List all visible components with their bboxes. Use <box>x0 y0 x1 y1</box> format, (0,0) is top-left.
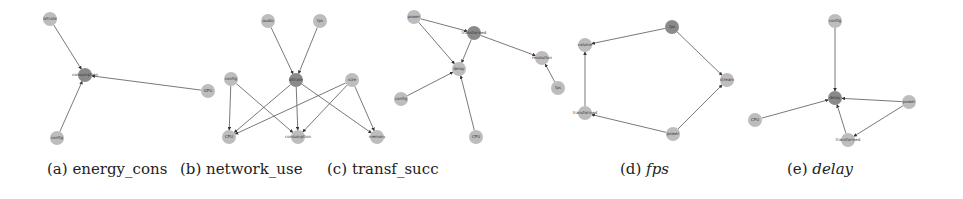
edge-size-to-cpu <box>235 83 345 134</box>
edge-power-to-delay <box>419 22 455 63</box>
node-resolution: resolution <box>532 51 552 65</box>
node-cpu: CPU <box>469 130 483 144</box>
node-bitrate: bitrate <box>43 12 57 26</box>
edge-cpu-to-delay <box>762 100 829 118</box>
node-label: volume <box>578 42 593 47</box>
node-label: transformed <box>836 137 861 142</box>
node-delay: delay <box>452 62 466 76</box>
node-label: stream <box>720 77 734 82</box>
node-label: config <box>395 96 408 101</box>
node-gpu: GPU <box>201 84 215 98</box>
caption-name: energy_cons <box>72 160 167 178</box>
edge-power-to-stream <box>678 85 722 129</box>
edge-transformed-to-delay <box>837 105 846 134</box>
node-label: CPU <box>751 117 759 122</box>
graph-panel-a: bitrateconsumptionconfigGPU <box>43 12 215 145</box>
node-volume: volume <box>578 38 593 52</box>
node-label: fps <box>555 85 561 90</box>
caption-b: (b) network_use <box>180 160 303 178</box>
edge-config-to-cpu <box>229 86 231 130</box>
graph-panel-d: fpsvolumestreamtransformedpower <box>573 20 734 141</box>
edge-fps-to-stream <box>677 32 722 75</box>
edge-fps-to-bitrate <box>299 27 318 73</box>
node-bitrate: bitrate <box>289 73 303 87</box>
edge-power-to-delay <box>842 98 902 101</box>
node-label: CPU <box>225 134 233 139</box>
node-transformed: transformed <box>836 133 861 147</box>
node-config: config <box>224 72 238 86</box>
node-label: power <box>408 14 421 19</box>
node-config: config <box>828 14 842 28</box>
node-label: bitrate <box>289 77 303 82</box>
edge-transformed-to-delay <box>462 39 472 62</box>
node-config: config <box>394 92 408 106</box>
node-config: config <box>50 131 64 145</box>
node-transformed: transformed <box>573 106 598 120</box>
caption-name: network_use <box>206 160 302 178</box>
node-label: resolution <box>532 55 552 60</box>
edge-fps-to-resolution <box>545 64 554 82</box>
node-label: transformed <box>462 30 487 35</box>
caption-a: (a) energy_cons <box>47 160 167 178</box>
caption-name: delay <box>812 160 853 178</box>
node-label: consumption <box>285 134 311 139</box>
edge-config-to-delay <box>407 72 453 96</box>
node-consumption: consumption <box>72 68 98 82</box>
edge-transformed-to-resolution <box>481 35 536 55</box>
node-label: memory <box>369 134 386 139</box>
caption-label: (d) <box>620 160 646 178</box>
edge-bitrate-to-cpu <box>234 85 290 133</box>
caption-d: (d) fps <box>620 160 669 178</box>
edge-config-to-consumption <box>236 84 292 133</box>
caption-c: (c) transf_succ <box>327 160 439 178</box>
edge-bitrate-to-memory <box>302 84 372 133</box>
node-label: GPU <box>204 88 213 93</box>
node-delay: delay <box>828 91 842 105</box>
caption-label: (c) <box>327 160 352 178</box>
caption-name: transf_succ <box>352 160 439 178</box>
node-transformed: transformed <box>462 26 487 40</box>
node-label: config <box>225 76 238 81</box>
edge-power-to-transformed <box>421 19 467 31</box>
node-label: delay <box>830 95 842 100</box>
caption-e: (e) delay <box>787 160 853 178</box>
node-memory: memory <box>369 130 386 144</box>
edge-bitrate-to-consumption <box>296 87 298 130</box>
caption-label: (b) <box>180 160 206 178</box>
node-label: size <box>348 77 356 82</box>
node-power: power <box>666 127 680 141</box>
caption-label: (a) <box>47 160 72 178</box>
node-label: CPU <box>472 134 480 139</box>
node-label: delay <box>454 66 466 71</box>
edge-power-to-transformed <box>854 106 903 137</box>
edge-fps-to-volume <box>592 28 665 43</box>
node-fps: fps <box>551 81 565 95</box>
edge-power-to-transformed <box>592 115 666 133</box>
node-label: audio <box>262 18 274 23</box>
edge-cpu-to-delay <box>461 76 475 130</box>
graph-panel-c: powertransformeddelayconfigCPUresolution… <box>394 10 565 144</box>
node-audio: audio <box>261 14 275 28</box>
node-cpu: CPU <box>748 113 762 127</box>
node-label: config <box>829 18 842 23</box>
node-label: power <box>903 99 916 104</box>
caption-label: (e) <box>787 160 812 178</box>
caption-name: fps <box>646 160 669 178</box>
node-power: power <box>902 95 916 109</box>
node-power: power <box>407 10 421 24</box>
node-label: transformed <box>573 110 598 115</box>
node-label: power <box>667 131 680 136</box>
node-size: size <box>345 73 359 87</box>
node-fps: fps <box>665 20 679 34</box>
node-label: fps <box>669 24 675 29</box>
edge-bitrate-to-consumption <box>54 25 82 69</box>
edge-audio-to-bitrate <box>271 27 293 73</box>
edge-config-to-consumption <box>60 81 82 131</box>
graph-panel-b: audiofpsbitrateconfigsizeCPUconsumptionm… <box>222 14 386 144</box>
node-label: bitrate <box>43 16 57 21</box>
edge-gpu-to-consumption <box>92 76 201 90</box>
node-label: consumption <box>72 72 98 77</box>
node-consumption: consumption <box>285 130 311 144</box>
node-label: config <box>51 135 64 140</box>
graph-panel-e: configdelayCPUpowertransformed <box>748 14 916 147</box>
